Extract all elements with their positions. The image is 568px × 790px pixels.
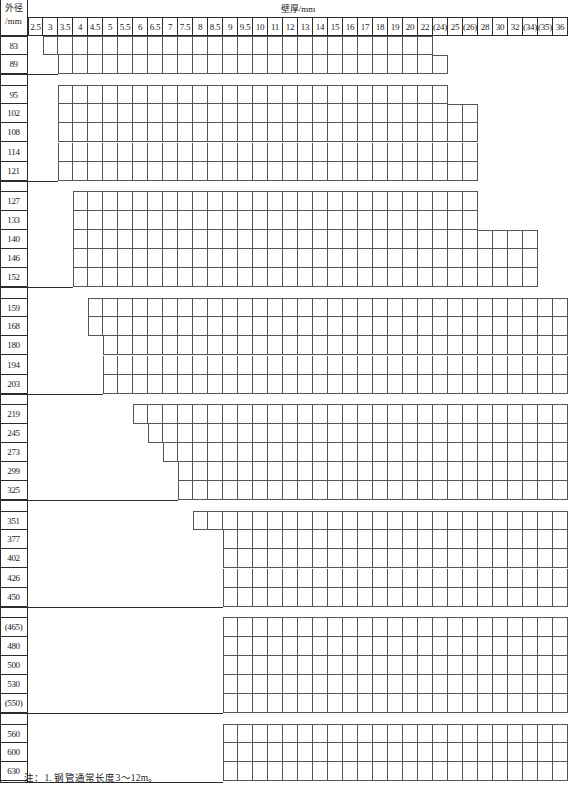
- grid-cell: [328, 443, 343, 462]
- grid-cell: [343, 675, 358, 694]
- grid-cell: [403, 588, 418, 607]
- row-label-245: 245: [0, 424, 28, 443]
- grid-cell: [328, 143, 343, 162]
- grid-cell: [448, 268, 463, 287]
- grid-cell: [298, 230, 313, 249]
- grid-cell: [163, 375, 178, 394]
- grid-cell: [373, 356, 388, 375]
- grid-cell: [523, 375, 538, 394]
- grid-cell: [283, 743, 298, 762]
- grid-cell: [118, 336, 133, 355]
- grid-cell: [448, 143, 463, 162]
- grid-cell: [493, 617, 508, 636]
- grid-cell: [238, 462, 253, 481]
- grid-cell: [268, 85, 283, 104]
- grid-cell: [238, 694, 253, 713]
- row-label-273: 273: [0, 443, 28, 462]
- grid-cell: [148, 268, 163, 287]
- grid-cell: [418, 85, 433, 104]
- grid-cell: [403, 530, 418, 549]
- grid-cell: [478, 462, 493, 481]
- grid-cell: [508, 762, 523, 781]
- column-header-16: 16: [343, 18, 358, 36]
- grid-cell: [358, 375, 373, 394]
- grid-cell: [238, 356, 253, 375]
- grid-cell: [88, 55, 103, 74]
- grid-cell: [238, 511, 253, 530]
- grid-cell: [373, 762, 388, 781]
- grid-cell: [238, 743, 253, 762]
- grid-cell: [268, 268, 283, 287]
- grid-cell: [358, 211, 373, 230]
- grid-cell: [178, 143, 193, 162]
- grid-cell: [463, 481, 478, 500]
- column-header-9: 9: [223, 18, 238, 36]
- grid-cell: [343, 656, 358, 675]
- grid-cell: [298, 617, 313, 636]
- grid-cell: [433, 162, 448, 181]
- grid-cell: [193, 55, 208, 74]
- grid-cell: [283, 123, 298, 142]
- grid-cell: [388, 675, 403, 694]
- grid-cell: [223, 298, 238, 317]
- grid-cell: [553, 530, 568, 549]
- grid-cell: [133, 249, 148, 268]
- grid-cell: [508, 230, 523, 249]
- grid-cell: [373, 694, 388, 713]
- grid-cell: [253, 375, 268, 394]
- row-label-152: 152: [0, 268, 28, 287]
- grid-cell: [523, 724, 538, 743]
- grid-cell: [253, 356, 268, 375]
- grid-cell: [133, 356, 148, 375]
- grid-cell: [253, 443, 268, 462]
- grid-cell: [538, 617, 553, 636]
- grid-cell: [223, 530, 238, 549]
- grid-cell: [268, 356, 283, 375]
- grid-cell: [508, 249, 523, 268]
- grid-cell: [508, 462, 523, 481]
- grid-cell: [523, 656, 538, 675]
- grid-cell: [178, 249, 193, 268]
- row-label-right-frame: [27, 36, 28, 782]
- grid-cell: [373, 55, 388, 74]
- grid-cell: [538, 404, 553, 423]
- grid-cell: [433, 762, 448, 781]
- row-label-108: 108: [0, 123, 28, 142]
- grid-cell: [253, 530, 268, 549]
- grid-cell: [388, 317, 403, 336]
- grid-cell: [388, 336, 403, 355]
- grid-cell: [343, 762, 358, 781]
- grid-cell: [463, 230, 478, 249]
- grid-cell: [343, 191, 358, 210]
- grid-cell: [103, 268, 118, 287]
- grid-cell: [388, 230, 403, 249]
- grid-cell: [328, 36, 343, 55]
- grid-cell: [448, 123, 463, 142]
- grid-cell: [313, 191, 328, 210]
- grid-cell: [178, 375, 193, 394]
- grid-cell: [538, 724, 553, 743]
- grid-cell: [313, 530, 328, 549]
- grid-cell: [478, 356, 493, 375]
- grid-cell: [448, 191, 463, 210]
- grid-cell: [433, 637, 448, 656]
- grid-cell: [343, 588, 358, 607]
- grid-cell: [523, 637, 538, 656]
- grid-cell: [433, 336, 448, 355]
- row-label-299: 299: [0, 462, 28, 481]
- grid-cell: [238, 268, 253, 287]
- grid-cell: [358, 317, 373, 336]
- grid-cell: [493, 462, 508, 481]
- grid-cell: [373, 85, 388, 104]
- grid-cell: [208, 481, 223, 500]
- grid-cell: [208, 191, 223, 210]
- grid-cell: [253, 317, 268, 336]
- grid-cell: [343, 462, 358, 481]
- grid-cell: [328, 191, 343, 210]
- grid-cell: [358, 656, 373, 675]
- grid-cell: [58, 143, 73, 162]
- row-label-140: 140: [0, 230, 28, 249]
- grid-cell: [193, 424, 208, 443]
- grid-cell: [328, 743, 343, 762]
- grid-cell: [253, 55, 268, 74]
